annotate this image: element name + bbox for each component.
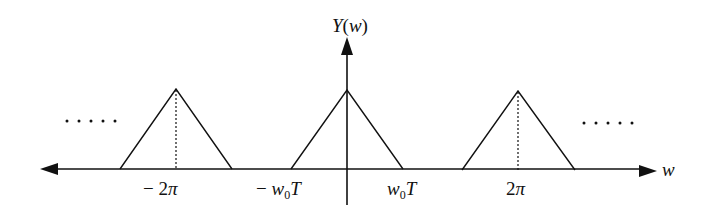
tick-label-neg-2pi: − 2π [143, 178, 178, 199]
x-axis-right-arrow-icon [639, 165, 657, 177]
ellipsis-right [583, 122, 634, 125]
x-axis-left-arrow-icon [40, 163, 58, 175]
tick-label-neg-w0T: − w0T [256, 178, 302, 202]
tick-label-pos-w0T: w0T [387, 178, 418, 202]
triangle-pos-2pi [462, 91, 575, 170]
y-axis-label: Y(w) [332, 15, 368, 37]
x-axis-label: w [662, 159, 675, 180]
y-axis-arrow-icon [341, 37, 353, 55]
triangle-neg-2pi [120, 89, 232, 169]
tick-label-pos-2pi: 2π [506, 178, 526, 199]
ellipsis-left [66, 120, 117, 123]
spectrum-diagram: Y(w) w − 2π − w0T w0T 2π [0, 0, 704, 215]
